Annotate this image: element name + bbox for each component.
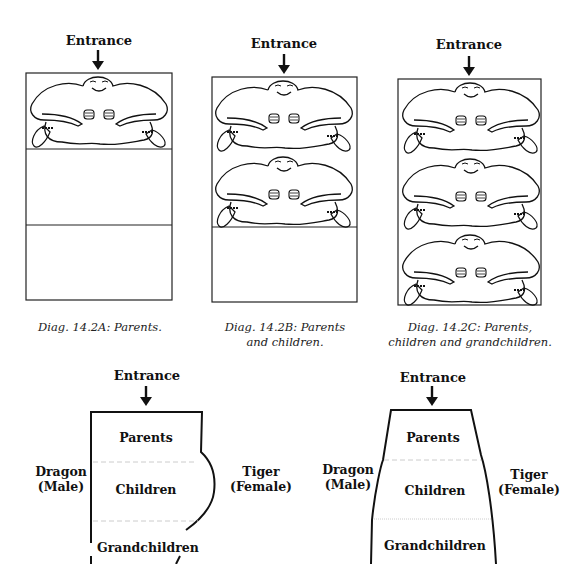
entrance-label-b: Entrance — [234, 36, 334, 51]
dragon-label: Dragon (Male) — [313, 462, 383, 492]
zone-grandchildren: Grandchildren — [78, 540, 218, 555]
zone-parents: Parents — [383, 430, 483, 445]
diagram-c — [398, 56, 541, 305]
caption-b: Diag. 14.2B: Parents and children. — [195, 320, 375, 350]
entrance-arrow-icon — [92, 50, 104, 70]
caption-b-line1: Diag. 14.2B: Parents — [195, 320, 375, 335]
seated-figure-icon — [403, 235, 540, 305]
seated-figure-icon — [403, 159, 540, 229]
tiger-label-line1: Tiger — [490, 467, 568, 482]
caption-c: Diag. 14.2C: Parents, children and grand… — [370, 320, 569, 350]
caption-c-line1: Diag. 14.2C: Parents, — [370, 320, 569, 335]
dragon-label-line2: (Male) — [313, 477, 383, 492]
zone-parents: Parents — [91, 430, 201, 445]
tiger-label-line2: (Female) — [226, 479, 296, 494]
dragon-label-line1: Dragon — [313, 462, 383, 477]
caption-b-line2: and children. — [195, 335, 375, 350]
dragon-label-line1: Dragon — [26, 464, 96, 479]
diagram-b — [212, 54, 357, 302]
tiger-label: Tiger (Female) — [226, 464, 296, 494]
seated-figure-icon — [403, 83, 540, 153]
caption-c-line2: children and grandchildren. — [370, 335, 569, 350]
entrance-arrow-icon — [463, 56, 475, 76]
tiger-label: Tiger (Female) — [490, 467, 568, 497]
seated-figure-icon — [31, 77, 168, 147]
entrance-arrow-icon — [278, 54, 290, 74]
zone-children: Children — [91, 482, 201, 497]
entrance-label-bottom-left: Entrance — [97, 368, 197, 383]
caption-a-line1: Diag. 14.2A: Parents. — [10, 320, 190, 335]
dragon-label-line2: (Male) — [26, 479, 96, 494]
caption-a: Diag. 14.2A: Parents. — [10, 320, 190, 335]
seated-figure-icon — [216, 81, 353, 151]
entrance-label-bottom-right: Entrance — [383, 370, 483, 385]
diagram-a — [26, 50, 172, 300]
entrance-arrow-icon — [426, 386, 438, 406]
entrance-arrow-icon — [140, 386, 152, 406]
entrance-label-a: Entrance — [49, 33, 149, 48]
entrance-label-c: Entrance — [419, 37, 519, 52]
tiger-label-line2: (Female) — [490, 482, 568, 497]
zone-grandchildren: Grandchildren — [375, 538, 495, 553]
tiger-label-line1: Tiger — [226, 464, 296, 479]
plot-irregular — [91, 386, 214, 564]
seated-figure-icon — [216, 157, 353, 227]
zone-children: Children — [380, 483, 490, 498]
dragon-label: Dragon (Male) — [26, 464, 96, 494]
